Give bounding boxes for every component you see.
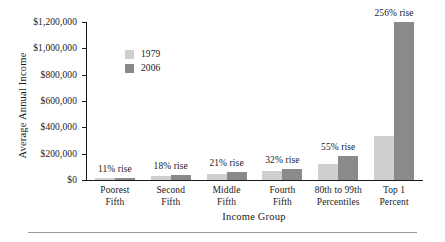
legend-label: 1979: [141, 49, 160, 59]
x-category-label-line: Middle: [199, 184, 255, 196]
bar-2006: [338, 156, 358, 180]
x-category-label-line: Second: [143, 184, 199, 196]
y-tick-label: $0: [67, 175, 77, 185]
plot-area: $0$200,000$400,000$600,000$800,000$1,000…: [86, 22, 422, 180]
bottom-divider: [28, 232, 417, 233]
x-axis-line: [86, 180, 423, 181]
bar-1979: [207, 174, 227, 180]
x-category-label-line: Percent: [366, 196, 422, 208]
bar-annotation: 32% rise: [265, 155, 299, 165]
x-category-label: Top 1Percent: [366, 184, 422, 208]
x-category-label-line: Fifth: [143, 196, 199, 208]
bar-1979: [151, 176, 171, 180]
y-tick-label: $1,200,000: [33, 17, 77, 27]
bar-1979: [374, 136, 394, 180]
legend-swatch-icon: [125, 50, 134, 59]
bar-annotation: 18% rise: [154, 161, 188, 171]
bar-2006: [115, 178, 135, 180]
legend-item-2006: 2006: [125, 61, 160, 75]
legend-swatch-icon: [125, 64, 134, 73]
y-tick-label: $600,000: [41, 96, 77, 106]
legend-item-1979: 1979: [125, 47, 160, 61]
bar-group: 21% rise: [199, 22, 255, 180]
y-axis-title: Average Annual Income: [17, 26, 28, 186]
y-tick-label: $200,000: [41, 149, 77, 159]
bar-group: 55% rise: [310, 22, 366, 180]
x-category-label: SecondFifth: [143, 184, 199, 208]
bar-2006: [282, 169, 302, 180]
bar-annotation: 256% rise: [374, 8, 413, 18]
x-axis-category-labels: PoorestFifthSecondFifthMiddleFifthFourth…: [87, 184, 422, 208]
x-category-label-line: Poorest: [87, 184, 143, 196]
x-category-label-line: Percentiles: [310, 196, 366, 208]
bar-annotation: 11% rise: [98, 164, 132, 174]
bar-2006: [227, 172, 247, 180]
x-category-label-line: Fifth: [254, 196, 310, 208]
bar-annotation: 21% rise: [209, 158, 243, 168]
y-tick-mark: [82, 180, 87, 181]
x-category-label-line: 80th to 99th: [310, 184, 366, 196]
x-category-label: FourthFifth: [254, 184, 310, 208]
bar-1979: [95, 178, 115, 180]
x-category-label: PoorestFifth: [87, 184, 143, 208]
bar-2006: [171, 175, 191, 180]
bar-annotation: 55% rise: [321, 142, 355, 152]
chart-legend: 19792006: [125, 47, 160, 75]
bar-group: 256% rise: [366, 22, 422, 180]
bar-group: 11% rise: [87, 22, 143, 180]
bar-2006: [394, 22, 414, 180]
bar-groups: 11% rise18% rise21% rise32% rise55% rise…: [87, 22, 422, 180]
chart-figure: Average Annual Income $0$200,000$400,000…: [0, 0, 445, 242]
x-category-label: 80th to 99thPercentiles: [310, 184, 366, 208]
legend-label: 2006: [141, 63, 160, 73]
x-axis-title: Income Group: [86, 211, 422, 222]
bar-group: 32% rise: [254, 22, 310, 180]
bar-1979: [318, 164, 338, 180]
x-category-label: MiddleFifth: [199, 184, 255, 208]
x-category-label-line: Fourth: [254, 184, 310, 196]
y-tick-label: $400,000: [41, 122, 77, 132]
y-tick-label: $1,000,000: [33, 43, 77, 53]
y-tick-label: $800,000: [41, 70, 77, 80]
bar-1979: [262, 171, 282, 180]
x-category-label-line: Fifth: [199, 196, 255, 208]
bar-group: 18% rise: [143, 22, 199, 180]
x-category-label-line: Fifth: [87, 196, 143, 208]
x-category-label-line: Top 1: [366, 184, 422, 196]
